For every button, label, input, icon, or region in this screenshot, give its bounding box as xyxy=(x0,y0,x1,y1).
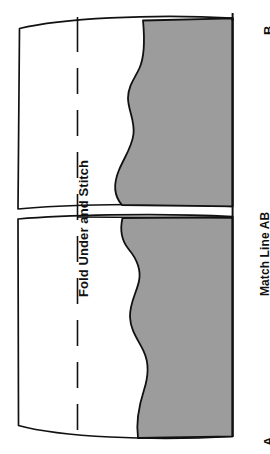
corner-label-a: A xyxy=(261,437,270,446)
fold-under-and-stitch-label: Fold Under and Stitch xyxy=(76,160,91,297)
match-line-ab-label: Match Line AB xyxy=(258,212,270,296)
pattern-drawing xyxy=(0,0,270,454)
match-line-divider xyxy=(78,217,233,218)
corner-label-b: B xyxy=(261,26,270,35)
pattern-diagram: Fold Under and Stitch Match Line AB B A xyxy=(0,0,270,454)
